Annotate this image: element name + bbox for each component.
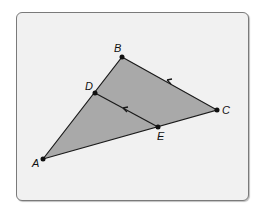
point-e <box>156 125 161 130</box>
label-a: A <box>31 157 39 169</box>
label-e: E <box>157 130 165 142</box>
triangle-diagram: A B C D E <box>0 0 262 215</box>
triangle-abc <box>43 57 217 159</box>
label-d: D <box>85 80 93 92</box>
point-a <box>41 157 46 162</box>
label-b: B <box>114 42 121 54</box>
label-c: C <box>222 104 230 116</box>
point-d <box>93 91 98 96</box>
point-b <box>120 55 125 60</box>
point-c <box>215 108 220 113</box>
